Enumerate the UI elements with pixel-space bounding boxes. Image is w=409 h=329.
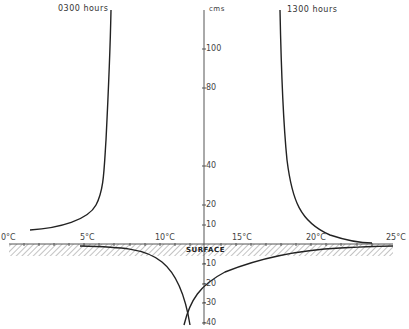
curve-0300-soil [80,246,190,325]
x-tick-10c: 10°C [155,233,175,242]
y-tick-minus40: -40 [203,318,216,327]
x-tick-15c: 15°C [232,233,252,242]
x-tick-20c: 20°C [306,233,326,242]
y-tick-40: 40 [206,161,216,170]
axis-unit-label: cms [209,5,225,13]
surface-label: SURFACE [186,246,225,254]
curve-1300-air [280,10,372,243]
label-1300-hours: 1300 hours [287,5,337,14]
x-tick-5c: 5°C [80,233,95,242]
y-tick-minus20: -20 [203,279,216,288]
y-tick-20: 20 [206,200,216,209]
x-tick-0c: 0°C [1,233,16,242]
y-tick-100: 100 [206,44,221,53]
curve-0300-air [30,10,111,230]
y-tick-minus30: -30 [203,298,216,307]
label-0300-hours: 0300 hours [58,4,108,13]
y-tick-minus10: -10 [203,259,216,268]
y-tick-80: 80 [206,83,216,92]
x-tick-25c: 25°C [386,233,406,242]
y-tick-10: 10 [206,220,216,229]
